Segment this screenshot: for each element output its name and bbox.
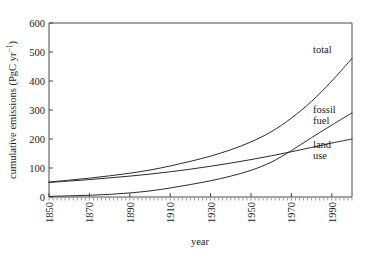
x-axis-minor-ticks	[49, 198, 352, 201]
curve-label-land-use-line2: use	[313, 150, 327, 161]
curve-land-use	[49, 139, 352, 183]
y-tick-label-0: 0	[40, 192, 45, 203]
data-curves	[49, 58, 352, 196]
x-tick-label-1930: 1930	[206, 202, 217, 223]
y-tick-label-500: 500	[29, 47, 45, 58]
y-tick-label-200: 200	[29, 134, 45, 145]
x-tick-label-1950: 1950	[246, 202, 257, 223]
x-axis-title: year	[191, 236, 210, 247]
x-tick-label-1850: 1850	[44, 202, 55, 223]
curve-fossil-fuel	[49, 113, 352, 197]
y-tick-labels: 600 500 400 300 200 100 0	[29, 18, 45, 203]
y-tick-label-300: 300	[29, 105, 45, 116]
x-tick-label-1870: 1870	[84, 202, 95, 223]
curve-label-total: total	[313, 44, 332, 55]
x-tick-label-1990: 1990	[327, 202, 338, 223]
plot-frame	[49, 23, 352, 197]
y-tick-label-400: 400	[29, 76, 45, 87]
curve-label-fossil-fuel-line2: fuel	[313, 115, 329, 126]
curve-label-fossil-fuel-line1: fossil	[313, 104, 336, 115]
curve-total	[49, 58, 352, 182]
y-tick-label-100: 100	[29, 163, 45, 174]
curve-labels: total fossil fuel land use	[313, 44, 336, 161]
y-tick-label-600: 600	[29, 18, 45, 29]
chart-svg: cumulative emissions (PgC yr−1) 600 500 …	[0, 0, 380, 258]
x-tick-labels: 1850 1870 1890 1910 1930 1950 1970 1990	[44, 202, 338, 223]
y-axis-ticks	[49, 23, 53, 197]
y-axis-title-exponent: −1	[5, 44, 14, 52]
y-axis-title: cumulative emissions (PgC yr−1)	[5, 41, 19, 179]
x-tick-label-1910: 1910	[165, 202, 176, 223]
svg-text:cumulative emissions (PgC yr−1: cumulative emissions (PgC yr−1)	[5, 41, 19, 179]
y-axis-title-paren: )	[7, 41, 19, 45]
curve-label-land-use-line1: land	[313, 139, 332, 150]
y-axis-title-text: cumulative emissions (PgC yr	[7, 52, 19, 179]
x-tick-label-1890: 1890	[125, 202, 136, 223]
figure-container: cumulative emissions (PgC yr−1) 600 500 …	[0, 0, 380, 258]
x-tick-label-1970: 1970	[286, 202, 297, 223]
